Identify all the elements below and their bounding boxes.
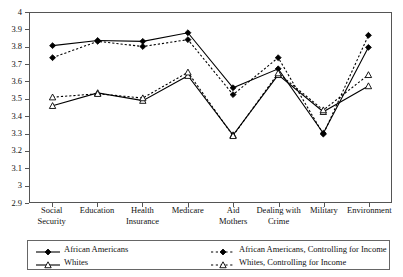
y-axis-tick-label: 3.1 — [11, 164, 22, 173]
x-axis-tick-label-line: Crime — [250, 216, 307, 227]
series-data-point — [49, 94, 55, 100]
series-line — [53, 75, 369, 135]
y-axis-tick-label: 3.4 — [11, 112, 22, 121]
y-axis-tick-mark — [25, 29, 29, 30]
series-data-point — [275, 55, 281, 61]
x-axis-tick-label-line: Insurance — [114, 216, 171, 227]
y-axis-tick-label: 3.2 — [11, 146, 22, 155]
y-axis-tick-label: 3.8 — [11, 42, 22, 51]
legend-marker-sample — [45, 249, 51, 255]
y-axis-tick-label: 3.9 — [11, 25, 22, 34]
legend-entry[interactable]: African Americans, Controlling for Incom… — [210, 243, 387, 256]
x-axis-tick-mark — [233, 203, 234, 207]
series-data-point — [365, 83, 371, 89]
chart-series-layer — [30, 13, 391, 202]
x-axis-tick-mark — [279, 203, 280, 207]
y-axis-tick-mark — [25, 134, 29, 135]
y-axis-tick-label: 3.3 — [11, 129, 22, 138]
y-axis-tick-mark — [25, 168, 29, 169]
chart-series — [50, 32, 372, 137]
y-axis-tick-label: 3.7 — [11, 60, 22, 69]
legend-label: African Americans — [64, 245, 128, 254]
legend-entry[interactable]: Whites, Controlling for Income — [210, 256, 346, 269]
chart-figure: 43.93.83.73.63.53.43.33.23.132.9 SocialS… — [0, 0, 403, 277]
x-axis: SocialSecurityEducationHealthInsuranceMe… — [29, 205, 392, 235]
series-data-point — [365, 32, 371, 38]
open-triangle-icon — [210, 257, 236, 269]
open-triangle-icon — [35, 257, 61, 269]
x-axis-tick-mark — [52, 203, 53, 207]
y-axis-tick-mark — [25, 81, 29, 82]
x-axis-tick-mark — [142, 203, 143, 207]
legend-entry[interactable]: African Americans — [35, 243, 128, 256]
y-axis-tick-label: 2.9 — [11, 199, 22, 208]
y-axis-tick-mark — [25, 203, 29, 204]
chart-series — [49, 69, 371, 138]
chart-series — [49, 72, 371, 138]
legend-label: Whites — [64, 258, 88, 267]
series-data-point — [50, 43, 56, 49]
y-axis-tick-mark — [25, 116, 29, 117]
x-axis-tick-label-line: Security — [23, 216, 80, 227]
chart-legend: African AmericansWhitesAfrican Americans… — [27, 240, 390, 270]
legend-marker-sample — [220, 249, 226, 255]
y-axis-tick-label: 3.5 — [11, 94, 22, 103]
series-line — [53, 33, 369, 134]
series-data-point — [365, 72, 371, 78]
x-axis-tick-mark — [188, 203, 189, 207]
y-axis-tick-label: 4 — [18, 8, 22, 17]
series-data-point — [140, 44, 146, 50]
y-axis-tick-mark — [25, 64, 29, 65]
legend-entry[interactable]: Whites — [35, 256, 88, 269]
y-axis-tick-mark — [25, 12, 29, 13]
legend-label: African Americans, Controlling for Incom… — [239, 245, 387, 254]
x-axis-tick-mark — [97, 203, 98, 207]
y-axis-tick-mark — [25, 47, 29, 48]
series-line — [53, 72, 369, 136]
x-axis-tick-mark — [369, 203, 370, 207]
y-axis: 43.93.83.73.63.53.43.33.23.132.9 — [0, 0, 27, 277]
y-axis-tick-mark — [25, 186, 29, 187]
filled-diamond-icon — [35, 244, 61, 256]
series-line — [53, 35, 369, 134]
x-axis-tick-mark — [324, 203, 325, 207]
y-axis-tick-label: 3 — [18, 181, 22, 190]
chart-series — [50, 30, 372, 136]
y-axis-tick-mark — [25, 99, 29, 100]
series-data-point — [50, 55, 56, 61]
y-axis-tick-label: 3.6 — [11, 77, 22, 86]
filled-diamond-icon — [210, 244, 236, 256]
plot-area — [29, 12, 392, 203]
series-data-point — [365, 44, 371, 50]
series-data-point — [185, 69, 191, 75]
legend-label: Whites, Controlling for Income — [239, 258, 346, 267]
y-axis-tick-mark — [25, 151, 29, 152]
